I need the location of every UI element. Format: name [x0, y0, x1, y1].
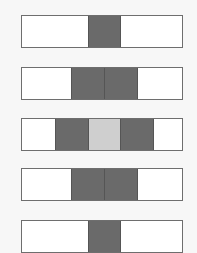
strip-3-cell-white-left	[22, 119, 55, 150]
strip-2-cell-dark-1	[71, 68, 104, 99]
strip-3	[21, 118, 183, 151]
strip-2	[21, 67, 183, 100]
strip-3-cell-dark-1	[55, 119, 88, 150]
strip-5-cell-white-right	[120, 221, 182, 252]
strip-5-cell-white-left	[22, 221, 88, 252]
strip-3-cell-white-right	[153, 119, 182, 150]
strip-2-cell-dark-2	[104, 68, 137, 99]
strip-3-cell-dark-2	[120, 119, 153, 150]
strip-4-cell-dark-2	[104, 169, 137, 200]
strip-4	[21, 168, 183, 201]
strip-1-cell-white-left	[22, 16, 88, 47]
strip-1-cell-dark-center	[88, 16, 120, 47]
strip-3-cell-light-center	[88, 119, 120, 150]
strip-4-cell-white-left	[22, 169, 71, 200]
strip-4-cell-white-right	[137, 169, 182, 200]
strip-1	[21, 15, 183, 48]
strip-2-cell-white-right	[137, 68, 182, 99]
strip-5-cell-dark-center	[88, 221, 120, 252]
strip-2-cell-white-left	[22, 68, 71, 99]
strip-4-cell-dark-1	[71, 169, 104, 200]
strip-1-cell-white-right	[120, 16, 182, 47]
strip-5	[21, 220, 183, 253]
